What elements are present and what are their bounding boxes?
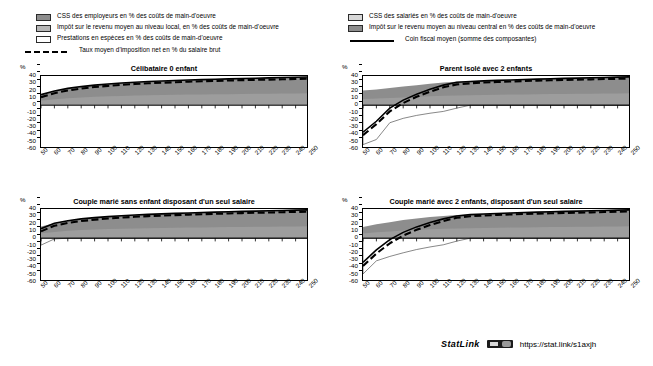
y-tick-label: -40 (349, 263, 358, 269)
chart-title: Couple marié sans enfant disposant d'un … (14, 197, 314, 206)
x-tick-label: 250 (629, 277, 641, 289)
plot-area (40, 75, 308, 148)
y-tick-label: 40 (29, 72, 36, 78)
y-tick-mark (359, 226, 362, 227)
chart-panel-4: %Couple marié avec 2 enfants, disposant … (336, 197, 636, 307)
y-tick-label: -30 (27, 123, 36, 129)
y-tick-mark (359, 93, 362, 94)
y-tick-mark (37, 137, 40, 138)
chart-svg (41, 209, 308, 281)
y-tick-label: -50 (27, 271, 36, 277)
legend-swatch-dark-gray-icon (348, 25, 363, 32)
y-tick-label: -20 (27, 116, 36, 122)
y-tick-mark (359, 197, 362, 198)
y-tick-label: 40 (29, 205, 36, 211)
y-tick-mark (37, 130, 40, 131)
y-tick-label: -60 (27, 145, 36, 151)
y-axis-labels: 403020100-10-20-30-40-50-60 (14, 75, 36, 148)
chart-svg (363, 76, 630, 148)
plot-area (40, 208, 308, 281)
legend-item-employer-scc: CSS des employeurs en % des coûts de mai… (36, 12, 336, 21)
y-tick-mark (359, 270, 362, 271)
y-tick-label: -40 (349, 130, 358, 136)
legend-item-cash-benefits: Prestations en espèces en % des coûts de… (36, 34, 336, 43)
y-tick-mark (359, 263, 362, 264)
y-tick-label: -60 (349, 278, 358, 284)
y-tick-mark (37, 255, 40, 256)
y-tick-mark (37, 248, 40, 249)
x-tick-label: 250 (307, 144, 319, 156)
chart-title: Couple marié avec 2 enfants, disposant d… (336, 197, 636, 206)
barcode-icon (487, 340, 513, 348)
chart-svg (363, 209, 630, 281)
y-tick-mark (37, 101, 40, 102)
legend-item-tax-wedge: Coin fiscal moyen (somme des composantes… (348, 35, 648, 44)
legend-swatch-light-gray-icon (348, 14, 363, 21)
y-tick-mark (359, 241, 362, 242)
y-tick-mark (359, 108, 362, 109)
legend-column-left: CSS des employeurs en % des coûts de mai… (36, 12, 336, 57)
legend-swatch-mid-gray-icon (36, 25, 51, 32)
legend-column-right: CSS des salariés en % des coûts de main-… (348, 12, 648, 46)
y-tick-mark (37, 204, 40, 205)
y-tick-mark (359, 79, 362, 80)
chart-panel-1: %Célibataire 0 enfant403020100-10-20-30-… (14, 64, 314, 174)
y-tick-mark (359, 122, 362, 123)
y-tick-label: -10 (27, 241, 36, 247)
legend-item-employee-scc: CSS des salariés en % des coûts de main-… (348, 12, 648, 21)
y-tick-label: 30 (351, 212, 358, 218)
y-tick-mark (37, 108, 40, 109)
legend-swatch-dark-gray-icon (36, 14, 51, 21)
y-tick-label: -20 (349, 116, 358, 122)
y-tick-label: 0 (355, 234, 358, 240)
statlink-url[interactable]: https://stat.link/s1axjh (520, 340, 596, 349)
legend-item-central-income-tax: Impôt sur le revenu moyen au niveau cent… (348, 23, 648, 32)
statlink-footer: StatLink https://stat.link/s1axjh (441, 339, 596, 349)
y-tick-mark (37, 115, 40, 116)
y-tick-mark (359, 204, 362, 205)
y-tick-label: -50 (27, 138, 36, 144)
legend-item-net-tax-rate: Taux moyen d'imposition net en % du sala… (36, 46, 336, 55)
y-tick-mark (37, 241, 40, 242)
y-tick-mark (37, 270, 40, 271)
y-tick-mark (359, 219, 362, 220)
area-cash-benefits (363, 105, 630, 144)
y-tick-mark (37, 71, 40, 72)
y-tick-mark (37, 219, 40, 220)
y-tick-mark (37, 122, 40, 123)
y-tick-mark (37, 212, 40, 213)
legend-swatch-white-icon (36, 36, 51, 43)
y-tick-label: -10 (349, 241, 358, 247)
y-tick-mark (359, 86, 362, 87)
chart-title: Parent isolé avec 2 enfants (336, 64, 636, 73)
legend-label: CSS des salariés en % des coûts de main-… (369, 12, 517, 20)
y-tick-mark (359, 101, 362, 102)
y-tick-label: 20 (351, 219, 358, 225)
y-tick-label: -20 (349, 249, 358, 255)
x-tick-label: 250 (629, 144, 641, 156)
y-tick-label: -40 (27, 130, 36, 136)
y-tick-mark (37, 79, 40, 80)
y-tick-label: 20 (29, 86, 36, 92)
y-tick-label: 30 (29, 212, 36, 218)
y-tick-label: -50 (349, 271, 358, 277)
y-tick-mark (37, 197, 40, 198)
y-tick-mark (37, 263, 40, 264)
chart-svg (41, 76, 308, 148)
legend: CSS des employeurs en % des coûts de mai… (0, 12, 653, 62)
legend-label: Taux moyen d'imposition net en % du sala… (79, 46, 220, 54)
y-tick-label: 10 (351, 227, 358, 233)
y-tick-label: -40 (27, 263, 36, 269)
y-tick-label: 20 (351, 86, 358, 92)
chart-panel-2: %Parent isolé avec 2 enfants403020100-10… (336, 64, 636, 174)
dashed-line-icon (36, 48, 51, 55)
y-tick-label: 40 (351, 72, 358, 78)
y-tick-mark (359, 115, 362, 116)
y-tick-mark (359, 255, 362, 256)
y-tick-label: -50 (349, 138, 358, 144)
plot-area (362, 208, 630, 281)
legend-label: Impôt sur le revenu moyen au niveau cent… (369, 23, 595, 31)
y-tick-mark (359, 248, 362, 249)
y-axis-labels: 403020100-10-20-30-40-50-60 (336, 208, 358, 281)
chart-title: Célibataire 0 enfant (14, 64, 314, 73)
